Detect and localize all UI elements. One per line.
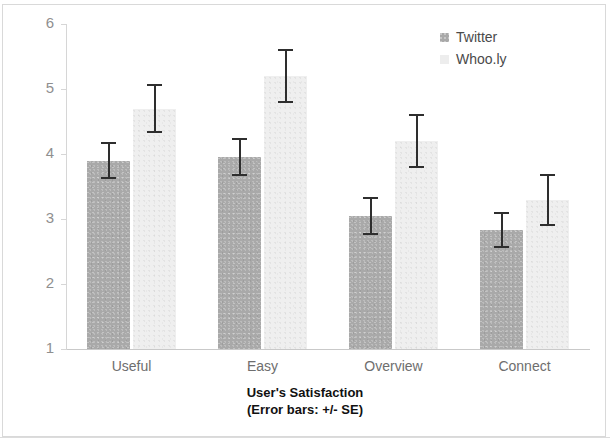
x-axis-title: User's Satisfaction (Error bars: +/- SE) [0,384,610,418]
error-bar-cap-top [232,138,247,140]
y-tick-label: 4 [24,144,54,161]
bar-easy-whooly [264,76,307,349]
bar-useful-whooly [133,109,176,350]
error-bar-cap-top [101,142,116,144]
bar-connect-whooly [526,200,569,350]
error-bar-cap-top [409,114,424,116]
legend: Twitter Whoo.ly [440,26,590,70]
legend-item-twitter[interactable]: Twitter [440,26,590,48]
y-tick-label: 2 [24,274,54,291]
figure-border-bottom [0,437,610,438]
x-tick-label-overview: Overview [334,358,454,374]
legend-item-whooly[interactable]: Whoo.ly [440,48,590,70]
bar-connect-twitter [480,230,523,349]
x-tick-label-useful: Useful [72,358,192,374]
y-tick-label: 1 [24,339,54,356]
x-axis-title-main: User's Satisfaction [247,385,364,400]
error-bar-cap-top [540,174,555,176]
legend-label-whooly: Whoo.ly [456,51,507,67]
legend-swatch-icon-whooly [440,55,449,64]
bar-overview-whooly [395,141,438,349]
x-axis-line [66,349,590,350]
error-bar-cap-top [147,84,162,86]
y-tick-label: 3 [24,209,54,226]
legend-swatch-icon-twitter [440,33,449,42]
plot-area [66,24,590,349]
bar-overview-twitter [349,216,392,349]
error-bar-cap-top [494,212,509,214]
legend-label-twitter: Twitter [456,29,497,45]
y-tick-label: 6 [24,14,54,31]
y-tick-label: 5 [24,79,54,96]
x-tick-label-connect: Connect [465,358,585,374]
error-bar-cap-top [363,197,378,199]
bar-useful-twitter [87,161,130,350]
bar-easy-twitter [218,157,261,349]
x-axis-title-sub: (Error bars: +/- SE) [0,401,610,418]
x-tick-label-easy: Easy [203,358,323,374]
bar-chart-figure: 654321 Mean UsefulEasyOverviewConnect Us… [0,0,610,443]
error-bar-cap-top [278,49,293,51]
